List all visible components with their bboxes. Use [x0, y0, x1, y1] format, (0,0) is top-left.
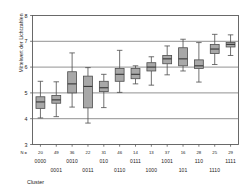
- cluster-label: 1001: [161, 158, 173, 164]
- n-value: 25: [212, 150, 217, 155]
- cluster-label: 0111: [130, 158, 141, 164]
- box-iqr: [84, 76, 93, 108]
- box-iqr: [194, 60, 203, 69]
- box-iqr: [36, 97, 45, 109]
- box-iqr: [68, 72, 77, 93]
- y-tick-label: 4: [18, 116, 28, 122]
- box-iqr: [131, 68, 140, 78]
- y-tick-label: 7: [18, 38, 28, 44]
- box-iqr: [99, 81, 108, 91]
- boxplot-101: [179, 39, 188, 71]
- n-value: 36: [70, 150, 75, 155]
- y-tick-label: 5: [18, 90, 28, 96]
- cluster-label: 1000: [145, 167, 157, 173]
- box-iqr: [179, 48, 188, 66]
- boxplot-0111: [131, 66, 140, 84]
- boxplot-1000: [147, 57, 156, 85]
- boxplot-110: [194, 43, 203, 82]
- cluster-label: 110: [195, 158, 203, 164]
- n-value: 14: [133, 150, 138, 155]
- n-value: 29: [228, 150, 233, 155]
- cluster-label: 010: [99, 158, 108, 164]
- n-value: 37: [165, 150, 170, 155]
- cluster-label: 0001: [50, 167, 62, 173]
- cluster-label: 0110: [114, 167, 125, 173]
- n-value: 22: [86, 150, 91, 155]
- boxplot-0001: [52, 82, 61, 117]
- boxplot-0010: [68, 53, 77, 107]
- cluster-label: 0010: [66, 158, 78, 164]
- boxplot-0011: [84, 68, 93, 123]
- n-value: 16: [181, 150, 186, 155]
- boxplot-1111: [226, 35, 235, 56]
- boxplot-1001: [163, 46, 172, 75]
- cluster-label: 101: [179, 167, 188, 173]
- boxplot-010: [99, 74, 108, 107]
- y-tick-label: 3: [18, 142, 28, 148]
- boxplot-figure: Mittelwert der Lichtzahlen 345678 N =204…: [0, 0, 250, 196]
- n-value: 49: [54, 150, 59, 155]
- cluster-label: 0011: [82, 167, 93, 173]
- n-value: 31: [101, 150, 106, 155]
- box-iqr: [163, 55, 172, 63]
- cluster-label: 1111: [225, 158, 236, 164]
- n-value: 28: [196, 150, 201, 155]
- boxplot-1110: [210, 34, 219, 64]
- n-value: 13: [149, 150, 154, 155]
- boxplot-0110: [115, 50, 124, 92]
- boxplot-0000: [36, 81, 45, 118]
- y-tick-label: 8: [18, 13, 28, 19]
- cluster-label: 1110: [209, 167, 220, 173]
- n-value: 46: [117, 150, 122, 155]
- y-tick-label: 6: [18, 64, 28, 70]
- n-value: 20: [38, 150, 43, 155]
- cluster-label: 0000: [35, 158, 47, 164]
- x-axis-title: Cluster: [27, 179, 44, 185]
- n-prefix-label: N =: [21, 150, 28, 155]
